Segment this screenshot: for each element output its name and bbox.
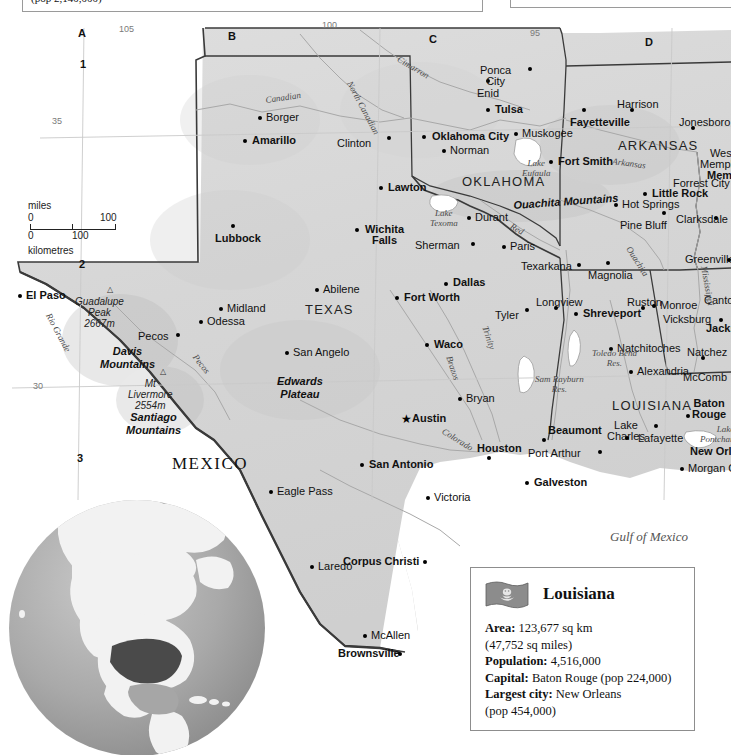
city-label-lubbock: Lubbock [215, 233, 261, 244]
city-label-midland: Midland [227, 303, 266, 314]
city-marker-san-angelo [285, 351, 289, 355]
city-marker-beaumont [542, 438, 546, 442]
atlas-map-page: (pop 2,140,000) [0, 0, 731, 755]
city-label-jackson: Jackson [706, 323, 731, 334]
city-marker-natchez [701, 356, 705, 360]
city-label-alexandria: Alexandria [637, 366, 689, 377]
city-marker-wichita-falls [355, 228, 359, 232]
city-label-borger: Borger [266, 112, 299, 123]
city-marker-amarillo [243, 139, 247, 143]
city-label-lawton: Lawton [388, 182, 427, 193]
city-label-ponca-city: Ponca City [480, 65, 511, 87]
state-label-louisiana: LOUISIANA [612, 399, 692, 412]
city-marker-shreveport [574, 312, 578, 316]
city-label-greenville: Greenville [685, 254, 731, 265]
city-label-san-angelo: San Angelo [293, 347, 349, 358]
state-fact-label: Area: [485, 621, 518, 635]
city-label-monroe: Monroe [660, 300, 697, 311]
physical-label-edwards-plateau: Edwards Plateau [277, 375, 323, 401]
water-label-brazos: Brazos [444, 355, 460, 382]
state-fact-row: Largest city: New Orleans [485, 686, 690, 703]
city-marker-ruston [641, 306, 645, 310]
city-label-abilene: Abilene [323, 284, 360, 295]
state-fact-value: (pop 454,000) [485, 704, 556, 718]
city-label-longview: Longview [536, 297, 582, 308]
city-label-durant: Durant [475, 212, 508, 223]
city-label-eagle-pass: Eagle Pass [277, 486, 333, 497]
city-label-fort-worth: Fort Worth [404, 292, 460, 303]
city-label-laredo: Laredo [318, 561, 352, 572]
city-marker-texarkana [577, 263, 581, 267]
city-marker-eagle-pass [269, 490, 273, 494]
water-label-pecos: Pecos [191, 353, 211, 375]
physical-label-davis-mountains: Davis Mountains [100, 345, 155, 371]
city-label-sherman: Sherman [415, 240, 460, 251]
city-label-tulsa: Tulsa [495, 104, 523, 115]
city-marker-port-arthur [598, 450, 602, 454]
state-fact-value: Baton Rouge (pop 224,000) [532, 671, 672, 685]
state-fact-label: Largest city: [485, 687, 556, 701]
city-label-clinton: Clinton [337, 138, 371, 149]
city-marker-norman [442, 149, 446, 153]
city-label-mcallen: McAllen [371, 630, 410, 641]
city-marker-paris [502, 245, 506, 249]
city-label-hot-springs: Hot Springs [622, 199, 679, 210]
water-label-red: Red [509, 222, 526, 237]
city-marker-tyler [525, 308, 529, 312]
city-label-natchez: Natchez [687, 347, 727, 358]
city-label-muskogee: Muskogee [522, 128, 573, 139]
city-label-new-orleans: New Orleans [690, 446, 731, 457]
physical-label-ouachita-mountains: Ouachita Mountains [513, 193, 619, 211]
city-label-san-antonio: San Antonio [369, 459, 433, 470]
city-marker-fort-worth [395, 296, 399, 300]
city-label-clarksdale: Clarksdale [676, 214, 728, 225]
peak-marker-mt-livermore: △ [160, 368, 166, 376]
city-marker-little-rock [643, 192, 647, 196]
city-marker-midland [219, 307, 223, 311]
city-label-morgan-city: Morgan City [688, 463, 731, 474]
state-fact-value: 123,677 sq km [518, 621, 592, 635]
city-marker-lawton [379, 186, 383, 190]
city-label-oklahoma-city: Oklahoma City [432, 131, 509, 142]
state-label-texas: TEXAS [305, 303, 354, 316]
country-label-mexico: MEXICO [172, 455, 248, 472]
city-marker-el-paso [18, 294, 22, 298]
city-label-amarillo: Amarillo [252, 135, 296, 146]
city-label-magnolia: Magnolia [588, 270, 633, 281]
water-label-toledo-bend-res: Toledo Bend Res. [592, 348, 637, 368]
state-fact-label: Capital: [485, 671, 532, 685]
water-label-lake-eufaula: Lake Eufaula [522, 158, 551, 178]
city-marker-clarksdale [714, 216, 718, 220]
city-marker-fayetteville [582, 108, 586, 112]
city-marker-abilene [315, 288, 319, 292]
city-label-bryan: Bryan [466, 393, 495, 404]
state-label-arkansas: ARKANSAS [618, 139, 698, 152]
state-fact-row: Population: 4,516,000 [485, 653, 690, 670]
city-marker-dallas [444, 282, 448, 286]
water-label-canadian: Canadian [265, 91, 301, 105]
city-label-mccomb: McComb [683, 372, 727, 383]
city-label-wichita-falls: Wichita Falls [365, 224, 404, 246]
state-fact-value: 4,516,000 [551, 654, 601, 668]
city-marker-ponca-city [528, 67, 532, 71]
state-fact-label: Population: [485, 654, 551, 668]
city-marker-houston [487, 456, 491, 460]
city-marker-greenville [727, 258, 731, 262]
city-marker-bryan [458, 397, 462, 401]
city-marker-magnolia [606, 261, 610, 265]
city-marker-corpus-christi [423, 560, 427, 564]
city-label-galveston: Galveston [534, 477, 587, 488]
city-label-dallas: Dallas [453, 277, 485, 288]
city-label-texarkana: Texarkana [521, 261, 572, 272]
city-label-odessa: Odessa [207, 316, 245, 327]
louisiana-flag-icon [485, 580, 529, 610]
peak-label-guadalupe-peak: Guadalupe Peak 2667m [75, 296, 124, 329]
state-info-box: Louisiana Area: 123,677 sq km(47,752 sq … [470, 567, 695, 731]
city-label-victoria: Victoria [434, 492, 470, 503]
city-label-vicksburg: Vicksburg [663, 314, 711, 325]
state-fact-row: Area: 123,677 sq km [485, 620, 690, 637]
physical-label-santiago-mountains: Santiago Mountains [126, 411, 181, 437]
city-label-shreveport: Shreveport [583, 308, 641, 319]
city-marker-mcallen [363, 634, 367, 638]
water-label-lake-pontchartrain: Lake Pontchartrain [700, 424, 731, 444]
